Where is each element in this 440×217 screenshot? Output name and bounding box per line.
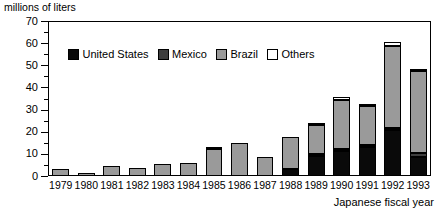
y-axis-major-tick bbox=[41, 154, 48, 155]
bar-1991 bbox=[359, 104, 376, 176]
legend-item-others: Others bbox=[267, 48, 315, 60]
x-axis-label-1984: 1984 bbox=[176, 180, 202, 191]
bar-1980 bbox=[78, 173, 95, 176]
bar-segment-brazil bbox=[231, 143, 248, 176]
legend-swatch-united-states bbox=[68, 49, 79, 60]
x-axis-label-1985: 1985 bbox=[201, 180, 227, 191]
y-axis-major-tick bbox=[41, 43, 48, 44]
y-axis-tick-label: 10 bbox=[0, 148, 38, 159]
chart-legend: United StatesMexicoBrazilOthers bbox=[68, 48, 314, 60]
bar-segment-brazil bbox=[384, 46, 401, 128]
bar-segment-united-states bbox=[359, 147, 376, 176]
bar-1992 bbox=[384, 42, 401, 176]
legend-item-label: Brazil bbox=[230, 48, 258, 60]
y-axis-tick-label: 50 bbox=[0, 60, 38, 71]
y-axis-major-tick bbox=[41, 65, 48, 66]
legend-item-mexico: Mexico bbox=[158, 48, 207, 60]
legend-item-label: United States bbox=[83, 48, 149, 60]
y-axis-major-tick bbox=[41, 87, 48, 88]
legend-swatch-mexico bbox=[158, 49, 169, 60]
bar-segment-brazil bbox=[103, 166, 120, 176]
x-axis-label-1983: 1983 bbox=[150, 180, 176, 191]
y-axis-major-tick bbox=[41, 176, 48, 177]
bar-1986 bbox=[231, 143, 248, 176]
y-axis-major-tick bbox=[41, 21, 48, 22]
x-axis-label-1987: 1987 bbox=[252, 180, 278, 191]
x-axis-label-1989: 1989 bbox=[303, 180, 329, 191]
x-axis-label-1986: 1986 bbox=[227, 180, 253, 191]
bar-segment-united-states bbox=[410, 157, 427, 176]
x-axis-label-1991: 1991 bbox=[354, 180, 380, 191]
bar-segment-brazil bbox=[180, 163, 197, 176]
legend-swatch-brazil bbox=[216, 49, 227, 60]
bar-segment-brazil bbox=[78, 173, 95, 176]
bar-1989 bbox=[308, 123, 325, 176]
x-axis-label-1979: 1979 bbox=[48, 180, 74, 191]
bar-segment-united-states bbox=[384, 130, 401, 177]
bar-segment-brazil bbox=[129, 168, 146, 176]
bar-1993 bbox=[410, 69, 427, 176]
bar-1990 bbox=[333, 97, 350, 176]
legend-swatch-others bbox=[267, 49, 278, 60]
y-axis-tick-label: 0 bbox=[0, 171, 38, 182]
x-axis-label-1990: 1990 bbox=[329, 180, 355, 191]
bar-segment-united-states bbox=[333, 151, 350, 176]
bar-segment-brazil bbox=[282, 137, 299, 169]
y-axis-tick-label: 30 bbox=[0, 104, 38, 115]
bar-1981 bbox=[103, 166, 120, 176]
y-axis-tick-label: 40 bbox=[0, 82, 38, 93]
bar-1985 bbox=[206, 147, 223, 176]
bar-1979 bbox=[52, 169, 69, 176]
legend-item-united-states: United States bbox=[68, 48, 149, 60]
y-axis-tick-label: 60 bbox=[0, 38, 38, 49]
bar-segment-brazil bbox=[257, 157, 274, 176]
x-axis-label-1992: 1992 bbox=[380, 180, 406, 191]
y-axis-unit-label: millions of liters bbox=[4, 1, 76, 13]
x-axis-title: Japanese fiscal year bbox=[334, 196, 434, 208]
x-axis-label-1982: 1982 bbox=[125, 180, 151, 191]
legend-item-brazil: Brazil bbox=[216, 48, 258, 60]
bar-1982 bbox=[129, 168, 146, 176]
bars-layer bbox=[48, 21, 431, 176]
bar-1983 bbox=[154, 164, 171, 176]
bar-segment-brazil bbox=[359, 106, 376, 145]
legend-item-label: Others bbox=[281, 48, 314, 60]
bar-segment-brazil bbox=[154, 164, 171, 176]
bar-1987 bbox=[257, 157, 274, 176]
bar-1988 bbox=[282, 137, 299, 176]
legend-item-label: Mexico bbox=[172, 48, 207, 60]
bar-segment-united-states bbox=[282, 169, 299, 176]
bar-segment-brazil bbox=[52, 169, 69, 176]
y-axis-tick-label: 70 bbox=[0, 16, 38, 27]
x-axis-label-1980: 1980 bbox=[74, 180, 100, 191]
bar-segment-united-states bbox=[308, 156, 325, 176]
bar-1984 bbox=[180, 163, 197, 176]
x-axis-label-1993: 1993 bbox=[405, 180, 431, 191]
y-axis-tick-label: 20 bbox=[0, 126, 38, 137]
figure-container: millions of liters 010203040506070 19791… bbox=[0, 0, 440, 217]
bar-segment-brazil bbox=[206, 149, 223, 176]
y-axis-major-tick bbox=[41, 132, 48, 133]
bar-segment-brazil bbox=[333, 100, 350, 149]
x-axis-label-1981: 1981 bbox=[99, 180, 125, 191]
y-axis-major-tick bbox=[41, 110, 48, 111]
bar-segment-brazil bbox=[410, 71, 427, 153]
bar-segment-brazil bbox=[308, 125, 325, 154]
x-axis-label-1988: 1988 bbox=[278, 180, 304, 191]
